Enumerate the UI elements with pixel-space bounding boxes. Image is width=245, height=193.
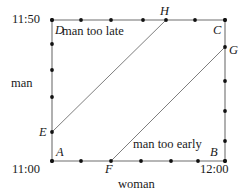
tick-dot [223, 18, 227, 22]
tick-dot [50, 68, 54, 72]
tick-dot [164, 18, 168, 22]
y-axis-min-label: 11:00 [12, 163, 40, 176]
tick-dot [109, 18, 113, 22]
tick-dot [139, 159, 143, 163]
y-axis-max-label: 11:50 [12, 13, 40, 26]
x-axis-name: woman [118, 178, 155, 191]
point-label-C: C [213, 24, 221, 37]
point-label-B: B [210, 146, 218, 159]
tick-dot [50, 18, 54, 22]
point-label-G: G [229, 44, 238, 57]
tick-dot [141, 18, 145, 22]
tick-dot [79, 159, 83, 163]
tick-dot [50, 42, 54, 46]
tick-dot [79, 18, 83, 22]
x-axis-max-label: 12:00 [200, 163, 228, 176]
point-label-H: H [160, 5, 169, 18]
tick-dot [223, 139, 227, 143]
region-label-man-too-early: man too early [133, 138, 202, 151]
point-label-D: D [55, 24, 64, 37]
tick-dot [223, 45, 227, 49]
tick-dot [223, 109, 227, 113]
tick-dot [50, 159, 54, 163]
tick-dot [50, 95, 54, 99]
point-label-F: F [105, 163, 113, 176]
y-axis-name: man [11, 77, 33, 90]
point-label-A: A [56, 146, 64, 159]
tick-dot [50, 130, 54, 134]
region-label-man-too-late: man too late [62, 25, 124, 38]
tick-dot [193, 18, 197, 22]
tick-dot [169, 159, 173, 163]
tick-dot [223, 79, 227, 83]
point-label-E: E [39, 126, 47, 139]
meeting-time-diagram: 11:50 11:00 12:00 man woman man too late… [0, 0, 245, 193]
